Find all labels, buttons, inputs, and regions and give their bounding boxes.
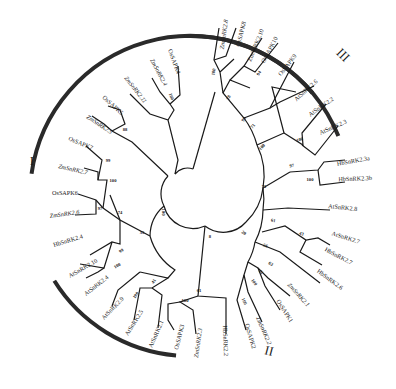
bootstrap-value: 56 bbox=[262, 242, 269, 249]
bootstrap-value: 99 bbox=[106, 158, 111, 163]
leaf-label: AtSnRK2.7 bbox=[331, 229, 361, 245]
leaf-label: ZmSnRK2.8 bbox=[218, 18, 229, 49]
leaf-label: OsSAPK7 bbox=[68, 134, 94, 151]
leaf-label: HbSnRK2.4 bbox=[52, 232, 83, 248]
bootstrap-value: 35 bbox=[140, 230, 145, 235]
bootstrap-value: 20 bbox=[241, 229, 248, 236]
leaf-label: AtSnRK2.8 bbox=[328, 202, 358, 212]
leaf-label: AtSnRK2.10 bbox=[67, 257, 98, 279]
leaf-label: HbSnRK2.3a bbox=[336, 154, 370, 167]
bootstrap-values: 1007894987110010097100716143566361100100… bbox=[98, 67, 314, 306]
bootstrap-value: 88 bbox=[123, 127, 128, 132]
leaf-label: ZmSnRK2.4 bbox=[149, 57, 169, 87]
clade-label: II bbox=[263, 342, 275, 359]
bootstrap-value: 99 bbox=[118, 247, 125, 254]
leaf-label: ZmSnRK2.3 bbox=[192, 328, 203, 358]
leaf-label: AtSnRK2.5 bbox=[123, 308, 144, 336]
leaf-label: ZmSnRK2.6 bbox=[49, 208, 80, 219]
leaf-label: HbSnRK2.3b bbox=[338, 174, 372, 182]
leaf-label: HbSnRK2.6 bbox=[316, 267, 345, 291]
bootstrap-value: 61 bbox=[271, 218, 277, 224]
bootstrap-value: 97 bbox=[98, 206, 103, 211]
bootstrap-value: 41 bbox=[150, 277, 157, 284]
bootstrap-value: 71 bbox=[249, 122, 256, 129]
bootstrap-value: 74 bbox=[118, 210, 123, 215]
leaf-label: AtSnRK2.1 bbox=[147, 319, 165, 348]
clade-label: III bbox=[333, 45, 353, 65]
bootstrap-value: 61 bbox=[197, 288, 202, 293]
leaf-label: OsSAPK3 bbox=[172, 324, 185, 351]
leaf-label: HbSnRK2.2 bbox=[222, 325, 230, 356]
bootstrap-value: 100 bbox=[241, 297, 249, 306]
bootstrap-value: 100 bbox=[250, 278, 258, 287]
leaf-label: ZmSnRK2.5 bbox=[85, 113, 114, 135]
bootstrap-value: 100 bbox=[210, 67, 216, 75]
bootstrap-value: 61 bbox=[258, 269, 265, 276]
bootstrap-value: 100 bbox=[113, 261, 122, 269]
bootstrap-value: 78 bbox=[225, 94, 232, 101]
leaf-label: ZmSnRK2.7 bbox=[58, 162, 89, 176]
leaf-label: AtSnRK2.4 bbox=[82, 273, 109, 296]
bootstrap-value: 63 bbox=[268, 260, 275, 267]
leaf-label: OsSAPK5 bbox=[101, 94, 125, 116]
leaf-label: OsSAPK2 bbox=[244, 323, 258, 350]
leaf-label: ZmSnRK2.1 bbox=[286, 281, 311, 308]
leaf-label: OsSAPK8 bbox=[234, 21, 247, 48]
bootstrap-value: 8 bbox=[209, 234, 212, 239]
bootstrap-value: 97 bbox=[289, 163, 295, 169]
bootstrap-value: 100 bbox=[110, 178, 118, 183]
phylogenetic-tree: ZmSnRK2.8OsSAPK8ZmSnRK2.10OsSAPK10OsSAPK… bbox=[0, 0, 396, 389]
leaf-label: OsSAPK6 bbox=[52, 189, 78, 196]
leaf-label: AtSnRK2.9 bbox=[100, 295, 125, 321]
leaf-label: ZmSnRK2.2 bbox=[255, 315, 273, 345]
clade-label: I bbox=[30, 153, 34, 168]
bootstrap-value: 100 bbox=[307, 177, 315, 182]
bootstrap-value: 100 bbox=[182, 298, 190, 303]
bootstrap-value: 100 bbox=[161, 209, 166, 217]
bootstrap-value: 71 bbox=[262, 184, 267, 189]
leaf-label: OsSAPK1 bbox=[275, 298, 295, 324]
leaf-label: HbSnRK2.7 bbox=[324, 245, 354, 265]
leaf-label: OsSAPK4 bbox=[167, 48, 182, 75]
clade-arc-III bbox=[184, 36, 338, 136]
leaf-label: AtSnRK2.2 bbox=[307, 95, 335, 117]
